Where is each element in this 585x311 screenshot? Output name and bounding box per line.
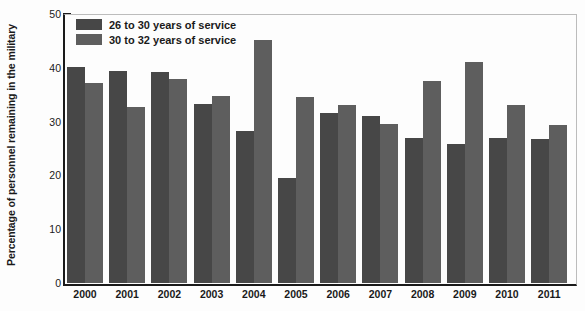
bar bbox=[320, 113, 338, 283]
x-axis-tick-label: 2003 bbox=[191, 288, 233, 300]
bar bbox=[338, 105, 356, 283]
y-axis-tick-label: 50 bbox=[49, 7, 61, 21]
bar bbox=[465, 62, 483, 283]
legend-label: 26 to 30 years of service bbox=[109, 19, 236, 31]
bar-group bbox=[236, 14, 272, 283]
legend: 26 to 30 years of service30 to 32 years … bbox=[76, 18, 236, 46]
y-axis-title-text: Percentage of personnel remaining in the… bbox=[5, 24, 17, 266]
bar bbox=[67, 67, 85, 283]
x-axis-tick-label: 2009 bbox=[444, 288, 486, 300]
x-axis-tick-label: 2001 bbox=[106, 288, 148, 300]
bar bbox=[380, 124, 398, 283]
bar bbox=[405, 138, 423, 283]
legend-item: 30 to 32 years of service bbox=[76, 33, 236, 46]
bar bbox=[254, 40, 272, 283]
bar bbox=[236, 131, 254, 283]
bar bbox=[489, 138, 507, 283]
bar bbox=[423, 81, 441, 283]
x-axis-labels: 2000200120022003200420052006200720082009… bbox=[65, 288, 574, 308]
bar-group bbox=[531, 14, 567, 283]
bars-layer bbox=[65, 14, 574, 283]
bar bbox=[362, 116, 380, 283]
x-axis-tick-label: 2004 bbox=[233, 288, 275, 300]
x-axis-tick-label: 2006 bbox=[317, 288, 359, 300]
bar bbox=[507, 105, 525, 283]
x-axis-tick-label: 2008 bbox=[402, 288, 444, 300]
bar bbox=[151, 72, 169, 283]
bar bbox=[296, 97, 314, 283]
bar bbox=[447, 144, 465, 283]
bar bbox=[278, 178, 296, 283]
y-axis-tick-label: 10 bbox=[49, 222, 61, 236]
bar bbox=[194, 104, 212, 283]
bar-group bbox=[405, 14, 441, 283]
legend-swatch bbox=[76, 19, 102, 30]
x-axis-tick-label: 2011 bbox=[528, 288, 570, 300]
x-axis-tick-label: 2000 bbox=[64, 288, 106, 300]
bar-group bbox=[67, 14, 103, 283]
bar bbox=[109, 71, 127, 284]
bar-group bbox=[109, 14, 145, 283]
y-axis-tick-label: 30 bbox=[49, 115, 61, 129]
bar-group bbox=[447, 14, 483, 283]
bar bbox=[212, 96, 230, 283]
x-axis-tick-label: 2007 bbox=[359, 288, 401, 300]
bar-group bbox=[194, 14, 230, 283]
y-axis-tick-label: 40 bbox=[49, 61, 61, 75]
bar bbox=[169, 79, 187, 283]
bar-group bbox=[489, 14, 525, 283]
bar-group bbox=[151, 14, 187, 283]
legend-item: 26 to 30 years of service bbox=[76, 18, 236, 31]
y-axis-tick-label: 20 bbox=[49, 168, 61, 182]
x-axis-tick-label: 2005 bbox=[275, 288, 317, 300]
bar-group bbox=[362, 14, 398, 283]
x-axis-tick-label: 2010 bbox=[486, 288, 528, 300]
legend-swatch bbox=[76, 34, 102, 45]
bar bbox=[85, 83, 103, 283]
bar bbox=[531, 139, 549, 283]
bar bbox=[549, 125, 567, 283]
y-axis-tick-label: 0 bbox=[55, 276, 61, 290]
bar-chart: Percentage of personnel remaining in the… bbox=[0, 0, 585, 311]
bar bbox=[127, 107, 145, 283]
bar-group bbox=[320, 14, 356, 283]
y-axis-title: Percentage of personnel remaining in the… bbox=[0, 0, 22, 290]
x-axis-tick-label: 2002 bbox=[148, 288, 190, 300]
legend-label: 30 to 32 years of service bbox=[109, 34, 236, 46]
bar-group bbox=[278, 14, 314, 283]
